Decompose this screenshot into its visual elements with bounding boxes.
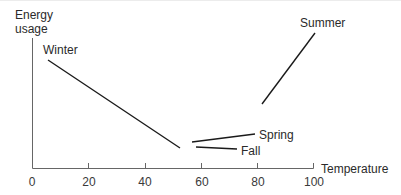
- x-tick-label-20: 20: [82, 175, 96, 189]
- series-label-winter: Winter: [43, 43, 78, 57]
- y-axis-label-line2: usage: [15, 22, 48, 36]
- series-line-winter: [48, 60, 180, 148]
- x-tick-label-0: 0: [29, 175, 36, 189]
- x-tick-label-80: 80: [251, 175, 265, 189]
- series-label-summer: Summer: [300, 16, 345, 30]
- series-line-spring: [192, 134, 255, 142]
- x-tick-label-60: 60: [195, 175, 209, 189]
- series-label-spring: Spring: [259, 128, 294, 142]
- x-tick-label-40: 40: [138, 175, 152, 189]
- y-axis-label-line1: Energy: [15, 8, 53, 22]
- energy-vs-temperature-chart: Energy usage 0 20 40 60 80 100 Temperatu…: [0, 0, 401, 195]
- series-label-fall: Fall: [241, 144, 260, 158]
- x-tick-label-100: 100: [304, 175, 324, 189]
- x-axis-tick-labels: 0 20 40 60 80 100: [29, 175, 325, 189]
- series-line-fall: [196, 147, 237, 149]
- x-axis-ticks: [89, 163, 314, 169]
- x-axis-label: Temperature: [321, 162, 389, 176]
- series-line-summer: [262, 33, 315, 104]
